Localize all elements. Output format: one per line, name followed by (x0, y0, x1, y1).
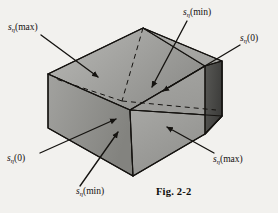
label-s-eta-min-lower-middle: sη(min) (76, 187, 104, 197)
cube-solid (48, 28, 222, 176)
cube-face-right-dark (205, 61, 222, 134)
cube-diagram (0, 0, 278, 213)
label-argument: (0) (14, 153, 25, 163)
label-s-eta-zero-lower-left: sη(0) (7, 154, 25, 164)
figure-caption: Fig. 2-2 (156, 186, 191, 197)
label-s-eta-zero-upper-right: sη(0) (240, 34, 258, 44)
label-s-eta-min-upper-middle: sη(min) (183, 8, 211, 18)
label-s-eta-max-lower-right: sη(max) (213, 155, 243, 165)
label-argument: (0) (247, 33, 258, 43)
label-s-eta-max-upper-left: sη(max) (8, 23, 38, 33)
label-argument: (max) (15, 22, 38, 32)
label-argument: (max) (220, 154, 243, 164)
label-argument: (min) (190, 7, 211, 17)
label-argument: (min) (83, 186, 104, 196)
figure-container: sη(max) sη(min) sη(0) sη(0) sη(min) sη(m… (0, 0, 278, 213)
